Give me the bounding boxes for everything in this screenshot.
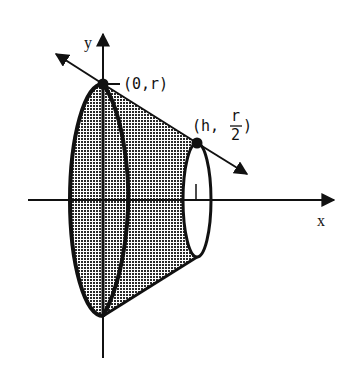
point-h-r2-prefix: (h, <box>192 117 219 135</box>
point-h-r2-suffix: ) <box>243 117 252 135</box>
x-axis-label: x <box>317 212 325 229</box>
point-h-r2-label: (h, r 2 ) <box>192 107 252 144</box>
point-h-r2 <box>192 138 203 149</box>
y-axis-label: y <box>84 34 92 52</box>
frustum-diagram: y x (0,r) (h, r 2 ) <box>0 0 352 371</box>
fraction-denominator: 2 <box>231 126 240 144</box>
generating-line <box>56 54 103 84</box>
fraction-numerator: r <box>231 107 240 125</box>
point-0-r-label: (0,r) <box>123 75 168 93</box>
